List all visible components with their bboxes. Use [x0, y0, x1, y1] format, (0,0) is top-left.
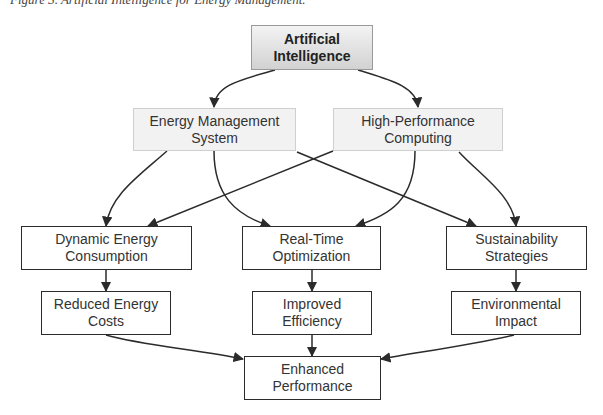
node-label-line2: Efficiency — [282, 313, 342, 330]
node-label-line1: Energy Management — [150, 113, 280, 130]
node-artificial-intelligence: Artificial Intelligence — [251, 25, 373, 70]
node-enhanced-performance: Enhanced Performance — [244, 356, 381, 400]
node-label-line1: High-Performance — [361, 113, 475, 130]
edge-ems-to-dec — [106, 151, 167, 226]
edge-ai-to-ems — [214, 70, 275, 107]
node-label-line1: Environmental — [471, 296, 561, 313]
node-reduced-energy-costs: Reduced Energy Costs — [41, 291, 171, 335]
edge-ei-to-ep — [381, 335, 514, 359]
node-label-line2: System — [150, 130, 280, 147]
node-energy-management-system: Energy Management System — [133, 108, 296, 151]
node-label-line1: Enhanced — [272, 361, 352, 378]
node-sustainability-strategies: Sustainability Strategies — [446, 226, 587, 270]
node-dynamic-energy-consumption: Dynamic Energy Consumption — [21, 226, 192, 270]
node-label-line2: Impact — [471, 313, 561, 330]
node-label-line1: Sustainability — [475, 231, 558, 248]
edge-ems-to-ss — [297, 152, 476, 226]
node-label-line2: Optimization — [273, 248, 351, 265]
edge-rec-to-ep — [106, 335, 243, 359]
edge-ai-to-hpc — [358, 70, 418, 107]
node-label-line1: Improved — [282, 296, 342, 313]
edge-hpc-to-ss — [459, 152, 516, 226]
node-high-performance-computing: High-Performance Computing — [333, 108, 503, 151]
node-label-line2: Strategies — [475, 248, 558, 265]
node-improved-efficiency: Improved Efficiency — [252, 291, 372, 335]
node-label-line1: Reduced Energy — [54, 296, 158, 313]
node-label-line2: Costs — [54, 313, 158, 330]
node-label-line1: Dynamic Energy — [55, 231, 158, 248]
node-environmental-impact: Environmental Impact — [451, 291, 581, 335]
node-label-line2: Performance — [272, 378, 352, 395]
node-label-line2: Intelligence — [273, 48, 350, 65]
edge-hpc-to-dec — [148, 151, 333, 226]
node-label-line2: Computing — [361, 130, 475, 147]
node-label-line1: Artificial — [273, 31, 350, 48]
node-label-line2: Consumption — [55, 248, 158, 265]
node-label-line1: Real-Time — [273, 231, 351, 248]
node-real-time-optimization: Real-Time Optimization — [242, 226, 381, 270]
